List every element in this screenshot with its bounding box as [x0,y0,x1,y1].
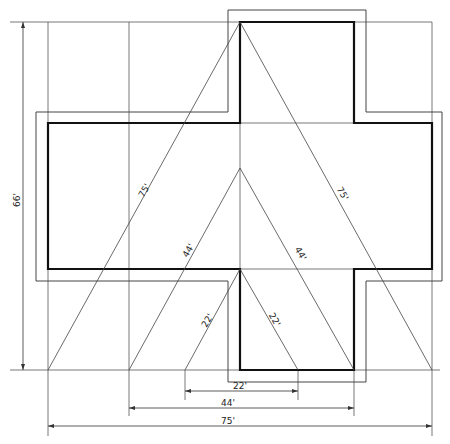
base-mid-label: 44' [221,398,235,408]
base-small-label: 22' [233,381,247,391]
diagonal-large-left-label: 75' [137,182,153,199]
base-large-label: 75' [221,416,235,426]
diagonal-large-right-label: 75' [335,185,351,202]
diagonal-small-left-label: 22' [200,312,216,329]
diagonal-mid-right-label: 44' [293,245,309,262]
diagonal-small-right-label: 22' [267,311,283,328]
roof-plan-diagram: 66' 75' 75' 44' 44' 22' 22' 22' 44' 75' [0,0,450,444]
height-dimension-label: 66' [12,193,22,207]
dimension-lines [21,22,432,428]
diagonal-mid-left-label: 44' [181,242,197,259]
grid-lines [10,22,440,436]
diagram-canvas: 66' 75' 75' 44' 44' 22' 22' 22' 44' 75' [0,0,450,444]
